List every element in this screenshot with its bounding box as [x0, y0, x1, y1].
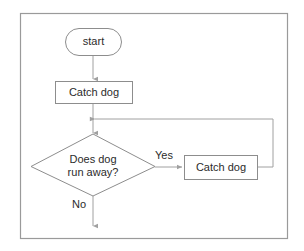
- flowchart-canvas: start Catch dog Does dog run away? Catch…: [0, 0, 304, 251]
- node-catch-dog-1[interactable]: Catch dog: [56, 82, 133, 104]
- edge-label-no: No: [72, 198, 86, 210]
- flowchart-svg: start Catch dog Does dog run away? Catch…: [0, 0, 304, 251]
- decision-label-line1: Does dog: [69, 153, 116, 165]
- edge-label-yes: Yes: [155, 149, 173, 161]
- node-start[interactable]: start: [66, 29, 122, 56]
- decision-label-line2: run away?: [68, 166, 119, 178]
- catch-dog-2-label: Catch dog: [196, 161, 246, 173]
- start-label: start: [83, 35, 104, 47]
- outer-border: [21, 14, 288, 239]
- node-decision[interactable]: Does dog run away?: [31, 134, 155, 196]
- node-catch-dog-2[interactable]: Catch dog: [185, 156, 258, 180]
- catch-dog-1-label: Catch dog: [69, 86, 119, 98]
